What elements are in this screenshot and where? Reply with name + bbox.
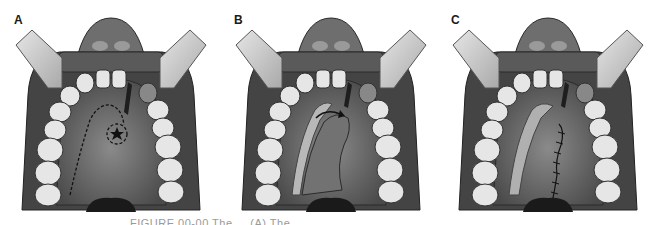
panel-c: C bbox=[437, 0, 655, 212]
oral-cavity-illustration-b bbox=[220, 0, 438, 212]
oral-cavity-illustration-c bbox=[437, 0, 655, 212]
panel-b: B bbox=[220, 0, 438, 212]
figure-caption: FIGURE 00-00 The ... (A) The ... bbox=[130, 217, 650, 225]
oral-cavity-illustration-a bbox=[0, 0, 218, 212]
panel-a: A bbox=[0, 0, 218, 212]
